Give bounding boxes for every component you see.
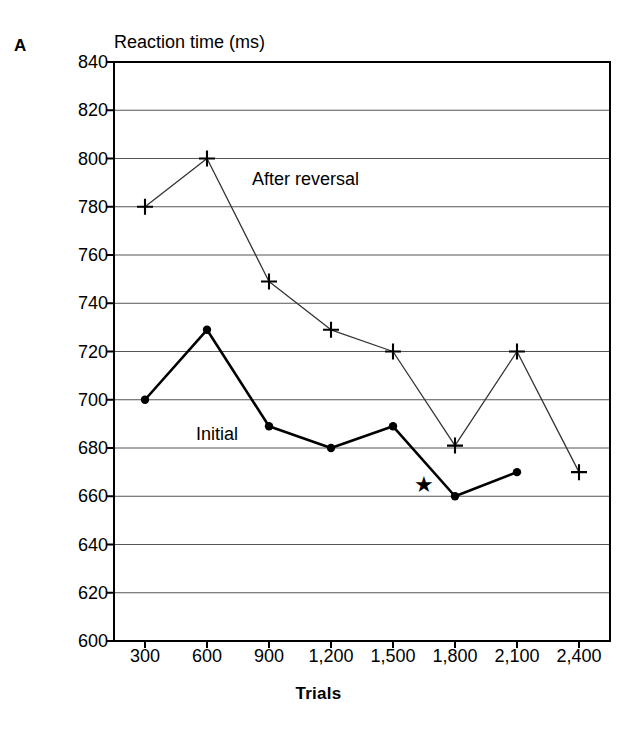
data-point-marker	[385, 344, 401, 360]
data-point-marker	[141, 396, 149, 404]
data-point-marker	[323, 322, 339, 338]
significance-star-annotation: ★	[414, 472, 434, 497]
plot-area: ★	[0, 0, 637, 736]
data-point-marker	[327, 444, 335, 452]
data-point-marker	[261, 274, 277, 290]
series-line	[145, 159, 579, 473]
data-point-marker	[265, 422, 273, 430]
annotations: ★	[414, 472, 434, 497]
data-point-marker	[447, 438, 463, 454]
data-point-marker	[451, 492, 459, 500]
figure-panel-a: A Reaction time (ms) 6006206406606807007…	[0, 0, 637, 736]
series-line	[145, 330, 517, 496]
data-point-marker	[513, 468, 521, 476]
data-point-marker	[571, 464, 587, 480]
data-point-marker	[509, 344, 525, 360]
data-point-marker	[137, 199, 153, 215]
data-point-marker	[199, 151, 215, 167]
axis-ticks	[107, 62, 579, 648]
data-point-marker	[203, 326, 211, 334]
data-point-marker	[389, 422, 397, 430]
